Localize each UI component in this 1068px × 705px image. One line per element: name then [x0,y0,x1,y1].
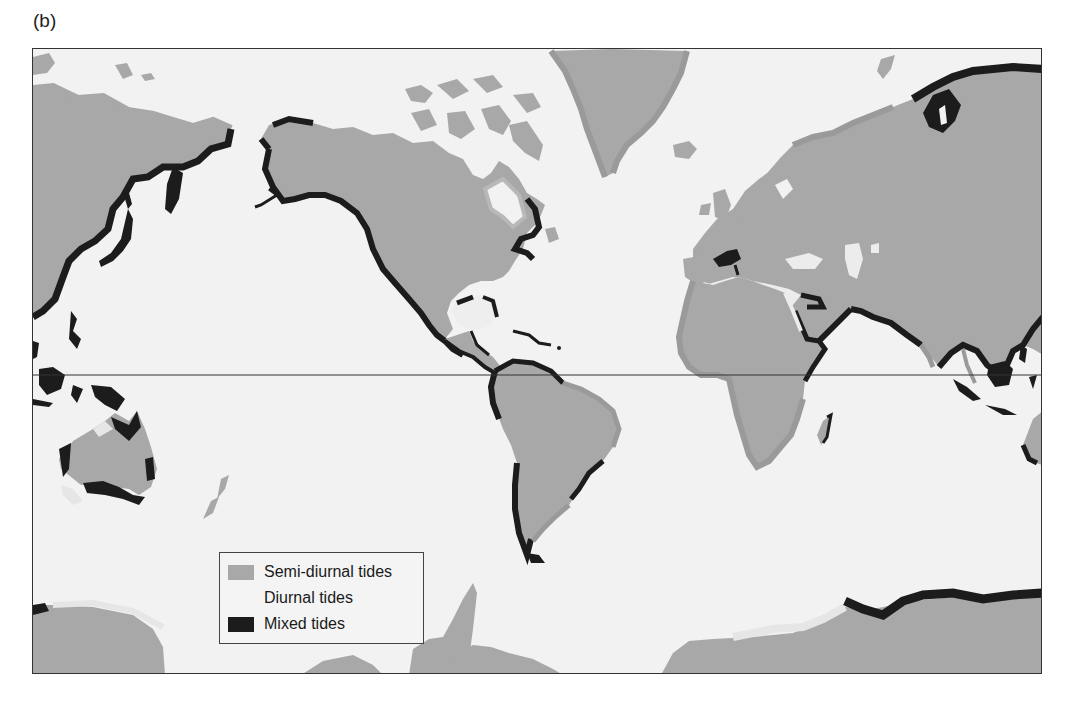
legend-label: Semi-diurnal tides [264,563,392,581]
map-graphic [33,49,1042,674]
panel-label: (b) [33,10,56,32]
legend-item-mixed: Mixed tides [228,611,415,637]
legend-item-diurnal: Diurnal tides [228,585,415,611]
legend-label: Mixed tides [264,615,345,633]
world-tide-map: Semi-diurnal tides Diurnal tides Mixed t… [32,48,1042,674]
mixed-swatch [228,617,254,632]
map-legend: Semi-diurnal tides Diurnal tides Mixed t… [219,552,424,644]
diurnal-swatch [228,591,254,606]
semi-diurnal-swatch [228,565,254,580]
legend-item-semi-diurnal: Semi-diurnal tides [228,559,415,585]
legend-label: Diurnal tides [264,589,353,607]
